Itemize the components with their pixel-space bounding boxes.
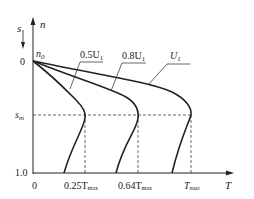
n-axis-label: n bbox=[40, 18, 46, 30]
torque-speed-diagram: n s n0 0 sm 1.0 0 T 0.5U1 0.8U1 U1 0.25T… bbox=[0, 0, 254, 199]
origin-label: 0 bbox=[32, 180, 37, 191]
curve-U1 bbox=[33, 61, 191, 173]
s-axis-label: s bbox=[17, 22, 21, 34]
s-down-arrow-icon bbox=[21, 42, 25, 49]
curve-label-0.8U1: 0.8U1 bbox=[122, 50, 146, 63]
torque-label-064: 0.64Tmax bbox=[118, 180, 152, 191]
leader-U1 bbox=[149, 64, 167, 84]
s-zero-label: 0 bbox=[20, 56, 25, 67]
curve-label-0.5U1: 0.5U1 bbox=[80, 49, 104, 62]
curve-label-U1: U1 bbox=[170, 50, 181, 63]
y-axis-arrow-icon bbox=[31, 17, 36, 25]
torque-label-025: 0.25Tmax bbox=[64, 180, 98, 191]
t-axis-label: T bbox=[225, 179, 232, 191]
sm-label: sm bbox=[15, 109, 24, 122]
s-one-label: 1.0 bbox=[15, 167, 28, 178]
torque-label-max: Tmax bbox=[184, 180, 200, 191]
n0-label: n0 bbox=[36, 48, 45, 61]
x-axis-arrow-icon bbox=[226, 171, 234, 176]
